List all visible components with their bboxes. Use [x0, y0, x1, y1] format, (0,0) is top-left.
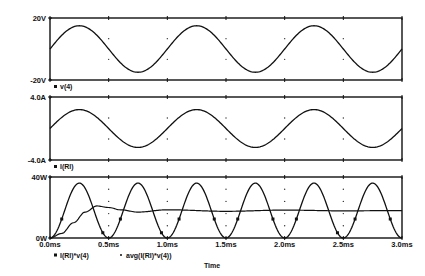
grid-dot: [108, 117, 109, 118]
legend-irl: I(Rl): [60, 163, 74, 171]
grid-dot: [343, 59, 344, 60]
grid-dot: [167, 138, 168, 139]
y-min-label: -20V: [30, 76, 46, 85]
x-tick-label: 3.0ms: [391, 240, 412, 249]
grid-dot: [108, 189, 109, 190]
grid-dot: [343, 138, 344, 139]
plot-voltage: 20V -20V v(4): [30, 14, 402, 91]
marker-square: [60, 218, 63, 221]
legend-avg-power: avg(I(Rl)*v(4)): [126, 252, 172, 260]
grid-dot: [284, 59, 285, 60]
grid-dot: [225, 59, 226, 60]
marker-square: [389, 218, 392, 221]
marker-square: [295, 218, 298, 221]
grid-dot: [167, 59, 168, 60]
legend-power: I(Rl)*v(4): [60, 252, 89, 260]
grid-dot: [167, 189, 168, 190]
grid-dot: [284, 138, 285, 139]
grid-dot: [225, 38, 226, 39]
legend-marker-square: [54, 85, 57, 88]
grid-dot: [108, 201, 109, 202]
grid-dot: [225, 117, 226, 118]
marker-square: [271, 218, 274, 221]
plot-power: 40W 0W: [32, 173, 402, 243]
marker-square: [178, 218, 181, 221]
grid-dot: [167, 213, 168, 214]
grid-dot: [167, 38, 168, 39]
grid-dot: [167, 225, 168, 226]
grid-dot: [343, 38, 344, 39]
grid-dot: [284, 225, 285, 226]
grid-dot: [167, 201, 168, 202]
v4-curve: [50, 26, 402, 73]
legend-marker-dot: [120, 254, 122, 256]
grid-dot: [108, 138, 109, 139]
marker-square: [101, 231, 104, 234]
grid-dot: [225, 138, 226, 139]
x-tick-label: 0.5ms: [98, 240, 119, 249]
tick-marks: [48, 95, 402, 162]
irl-curve: [50, 110, 402, 148]
grid-dot: [284, 38, 285, 39]
marker-square: [354, 218, 357, 221]
marker-square: [160, 231, 163, 234]
grid-dot: [108, 38, 109, 39]
grid-dot: [108, 213, 109, 214]
tick-marks: [48, 16, 402, 82]
x-tick-label: 2.0ms: [274, 240, 295, 249]
x-tick-label: 1.5ms: [215, 240, 236, 249]
x-axis-tick-labels: 0.0ms0.5ms1.0ms1.5ms2.0ms2.5ms3.0ms: [39, 240, 412, 249]
x-tick-label: 2.5ms: [333, 240, 354, 249]
y-min-label: -4.0A: [28, 156, 47, 165]
grid-dot: [284, 213, 285, 214]
y-max-label: 40W: [32, 173, 48, 182]
grid-dot: [225, 213, 226, 214]
x-tick-label: 1.0ms: [157, 240, 178, 249]
legend-marker-square: [54, 165, 57, 168]
legend-marker-square: [54, 254, 57, 257]
grid-dot: [225, 201, 226, 202]
waveform-chart: 20V -20V v(4) 4.0A -4.0A I(Rl) 40W 0W 0.…: [0, 0, 425, 276]
grid-dot: [225, 189, 226, 190]
grid-dot: [167, 117, 168, 118]
plot-frame: [50, 177, 402, 238]
marker-square: [336, 231, 339, 234]
grid-dot: [343, 189, 344, 190]
x-tick-label: 0.0ms: [39, 240, 60, 249]
grid-dot: [108, 59, 109, 60]
x-axis-title: Time: [204, 262, 220, 269]
y-max-label: 20V: [33, 14, 46, 23]
marker-square: [213, 218, 216, 221]
grid-dot: [225, 225, 226, 226]
grid-dot: [343, 213, 344, 214]
grid-dot: [284, 189, 285, 190]
grid-dot: [343, 201, 344, 202]
legend-v4: v(4): [60, 83, 72, 91]
grid-dots: [108, 189, 344, 227]
grid-dot: [284, 117, 285, 118]
grid-dot: [284, 201, 285, 202]
marker-square: [236, 218, 239, 221]
grid-dot: [108, 225, 109, 226]
grid-dot: [343, 117, 344, 118]
y-max-label: 4.0A: [30, 93, 46, 102]
marker-square: [119, 218, 122, 221]
grid-dot: [343, 225, 344, 226]
plot-current: 4.0A -4.0A I(Rl): [28, 93, 402, 171]
